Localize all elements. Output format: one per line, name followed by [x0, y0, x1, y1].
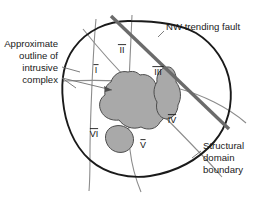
structural-boundary-label-line-2: domain [203, 152, 234, 163]
callout-nw-trending-fault: NW trending fault [166, 21, 240, 32]
structural-boundary-label-line-1: Structural [203, 140, 244, 151]
domain-label-text: VI [90, 129, 99, 139]
structural-domain-diagram: Approximate outline of intrusive complex… [0, 0, 263, 210]
intrusive-outline-label-line-3: intrusive [22, 62, 58, 73]
domain-label-text: V [140, 140, 146, 150]
intrusive-outline-label-line-2: outline of [19, 50, 58, 61]
intrusive-body [105, 126, 133, 153]
domain-label-text: I [95, 65, 98, 75]
domain-label-text: III [154, 67, 162, 77]
intrusive-outline-label-line-1: Approximate [4, 38, 58, 49]
intrusive-outline-label-line-4: complex [22, 74, 58, 85]
domain-label-v: V [140, 140, 146, 150]
nw-fault-label: NW trending fault [166, 21, 240, 32]
structural-boundary-label-line-3: boundary [203, 164, 243, 175]
geology-figure: Approximate outline of intrusive complex… [0, 0, 263, 210]
domain-label-text: II [119, 45, 124, 55]
domain-label-vi: VI [90, 129, 99, 139]
domain-label-iv: IV [168, 115, 177, 125]
domain-label-text: IV [168, 115, 177, 125]
